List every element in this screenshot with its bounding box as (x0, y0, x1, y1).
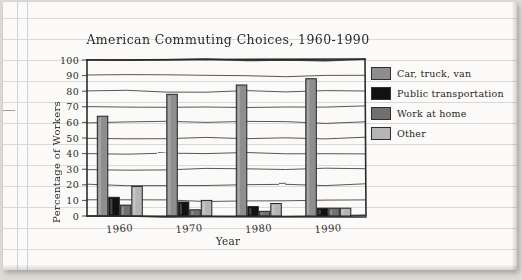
notebook-sheet: American Commuting Choices, 1960-1990 Pe… (3, 2, 517, 270)
screenshot-root: American Commuting Choices, 1960-1990 Pe… (0, 0, 522, 280)
x-tick-label: 1960 (106, 222, 134, 235)
y-tick-label: 20 (66, 179, 79, 190)
bars-layer (97, 79, 350, 216)
legend-item: Car, truck, van (371, 64, 517, 83)
chart-legend: Car, truck, van Public transportation Wo… (371, 64, 517, 144)
sheet-right-shadow (512, 2, 517, 270)
legend-label-other: Other (397, 128, 426, 139)
x-axis-label: Year (215, 235, 241, 247)
y-tick-label: 80 (66, 86, 79, 97)
y-tick-label: 90 (66, 70, 79, 81)
y-tick-label: 40 (66, 148, 79, 159)
legend-swatch-car-truck-van (371, 67, 391, 80)
x-tick-label: 1980 (245, 222, 273, 235)
legend-swatch-public-transportation (371, 87, 391, 100)
y-tick-label: 50 (66, 133, 79, 144)
y-tick-label: 30 (66, 164, 79, 175)
legend-item: Work at home (371, 104, 517, 123)
y-tick-labels: 0102030405060708090100 (60, 55, 79, 222)
sheet-bottom-shadow (3, 265, 517, 270)
y-tick-label: 10 (66, 195, 79, 206)
x-tick-label: 1990 (314, 222, 342, 235)
x-tick-label: 1970 (175, 222, 203, 235)
legend-swatch-other (371, 127, 391, 140)
chart-title: American Commuting Choices, 1960-1990 (85, 32, 369, 47)
x-tick-labels: 1960197019801990 (106, 222, 342, 235)
legend-item: Other (371, 124, 517, 143)
gridlines (82, 59, 365, 217)
y-tick-label: 100 (60, 55, 79, 66)
legend-item: Public transportation (371, 84, 517, 103)
y-tick-label: 0 (73, 211, 79, 222)
legend-label-car-truck-van: Car, truck, van (397, 68, 471, 79)
y-tick-label: 60 (66, 117, 79, 128)
legend-label-work-at-home: Work at home (397, 108, 467, 119)
y-tick-label: 70 (66, 101, 79, 112)
hand-drawn-bar-chart: American Commuting Choices, 1960-1990 Pe… (3, 2, 517, 270)
legend-swatch-work-at-home (371, 107, 391, 120)
legend-label-public-transportation: Public transportation (397, 88, 504, 99)
y-axis-label: Percentage of Workers (51, 101, 62, 223)
